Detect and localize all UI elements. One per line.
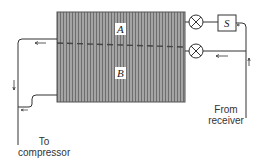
flow-arrow-down-icon [13,80,15,90]
evaporator-diagram: A B S From receiver To compressor [0,0,265,168]
region-b-label: B [115,67,126,79]
flow-arrow-left-lower-icon [21,109,28,111]
flow-arrow-left-icon [216,55,228,58]
solenoid-label: S [224,17,230,29]
region-a-label: A [115,23,126,35]
expansion-valve-lower-icon [189,44,203,58]
inlet-label-line1: From [208,104,244,115]
inlet-label-line2: receiver [208,115,244,126]
flow-arrow-left-upper-icon [35,42,46,45]
flow-arrow-up-icon [248,58,250,66]
expansion-valve-upper-icon [189,15,203,29]
inlet-label: From receiver [208,104,244,126]
outlet-label: To compressor [18,136,70,158]
outlet-label-line1: To [18,136,70,147]
outlet-label-line2: compressor [18,147,70,158]
